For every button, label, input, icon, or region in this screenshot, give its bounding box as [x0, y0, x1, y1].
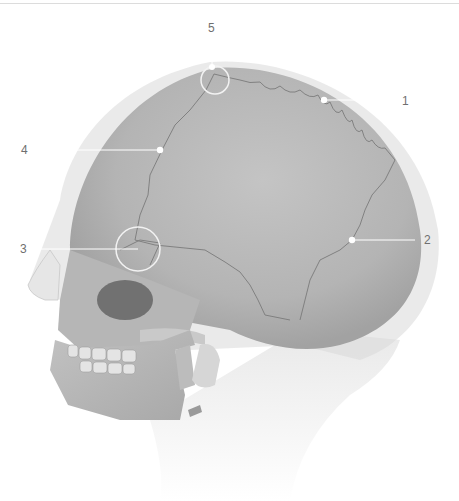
skull-illustration [0, 0, 459, 501]
callout-label-3: 3 [20, 243, 27, 255]
callout-label-5: 5 [208, 22, 215, 34]
callout-label-2: 2 [424, 234, 431, 246]
orbit [97, 280, 153, 320]
callout-label-1: 1 [402, 95, 409, 107]
callout-label-4: 4 [21, 144, 28, 156]
